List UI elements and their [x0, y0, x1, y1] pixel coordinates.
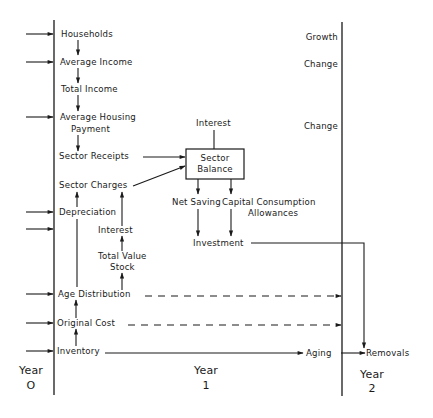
- year-0-label: Year: [18, 364, 43, 377]
- capital-consumption-allowances-label-line2: Allowances: [248, 208, 298, 218]
- total-value-stock-label-line2: Stock: [110, 262, 135, 272]
- original-cost-label: Original Cost: [57, 318, 115, 328]
- growth-label: Growth: [306, 32, 338, 42]
- sector-balance-label: Sector: [201, 153, 230, 163]
- housing-sector-flow-diagram: Households Average Income Total Income A…: [0, 0, 433, 418]
- change-label-1: Change: [304, 59, 338, 69]
- interest-label: Interest: [98, 225, 133, 235]
- average-housing-payment-label: Average Housing: [60, 112, 136, 122]
- average-income-label: Average Income: [60, 57, 132, 67]
- average-housing-payment-label-line2: Payment: [71, 124, 110, 134]
- age-distribution-label: Age Distribution: [58, 289, 131, 299]
- net-saving-label: Net Saving: [172, 197, 221, 207]
- aging-label: Aging: [306, 348, 332, 358]
- year-1-value: 1: [202, 379, 209, 392]
- interest-top-label: Interest: [196, 118, 231, 128]
- year-2-label: Year: [359, 368, 384, 381]
- total-value-stock-label: Total Value: [97, 251, 147, 261]
- change-label-2: Change: [304, 121, 338, 131]
- year-2-value: 2: [368, 382, 375, 395]
- sector-receipts-label: Sector Receipts: [59, 151, 129, 161]
- households-label: Households: [61, 29, 113, 39]
- total-income-label: Total Income: [60, 84, 118, 94]
- sector-charges-label: Sector Charges: [59, 180, 128, 190]
- exogenous-input-arrows: [26, 34, 53, 351]
- year-0-value: O: [27, 379, 36, 392]
- inventory-label: Inventory: [57, 346, 100, 356]
- removals-label: Removals: [366, 348, 410, 358]
- depreciation-label: Depreciation: [59, 207, 116, 217]
- sector-balance-label-line2: Balance: [197, 164, 233, 174]
- charges-to-balance-arrow: [133, 166, 185, 186]
- year-1-label: Year: [193, 364, 218, 377]
- sector-balance-box: Sector Balance: [186, 149, 244, 179]
- investment-label: Investment: [193, 238, 244, 248]
- capital-consumption-allowances-label: Capital Consumption: [222, 197, 316, 207]
